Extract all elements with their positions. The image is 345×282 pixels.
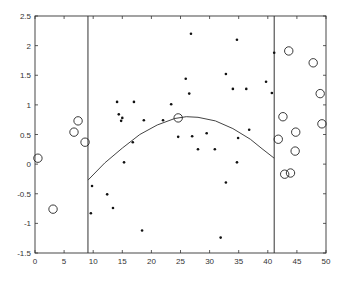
data-point-dot bbox=[141, 229, 144, 232]
data-point-circle bbox=[279, 113, 287, 121]
x-axis-ticks: 05101520253035404550 bbox=[33, 16, 331, 266]
data-point-circle bbox=[292, 128, 300, 136]
data-point-dot bbox=[121, 117, 124, 120]
y-tick-label: 2.5 bbox=[20, 12, 32, 21]
fit-curve-path bbox=[88, 117, 274, 180]
x-tick-label: 20 bbox=[147, 257, 156, 266]
data-point-dot bbox=[184, 78, 187, 81]
y-tick-label: 1.5 bbox=[20, 71, 32, 80]
data-point-dot bbox=[106, 193, 109, 196]
x-tick-label: 5 bbox=[62, 257, 67, 266]
x-tick-label: 30 bbox=[205, 257, 214, 266]
data-point-dot bbox=[188, 92, 191, 95]
data-point-circle bbox=[70, 128, 78, 136]
data-point-dot bbox=[232, 88, 235, 91]
data-point-dot bbox=[205, 132, 208, 135]
data-point-dot bbox=[225, 181, 228, 184]
x-tick-label: 40 bbox=[263, 257, 272, 266]
data-point-circle bbox=[49, 205, 57, 213]
data-point-circle bbox=[318, 120, 326, 128]
data-point-dot bbox=[245, 88, 248, 91]
y-tick-label: -1.5 bbox=[17, 249, 31, 258]
y-tick-label: -0.5 bbox=[17, 190, 31, 199]
y-tick-label: 2 bbox=[27, 42, 32, 51]
data-point-dot bbox=[273, 51, 276, 54]
data-point-dot bbox=[236, 38, 239, 41]
y-tick-label: 0 bbox=[27, 160, 32, 169]
x-tick-label: 50 bbox=[322, 257, 331, 266]
boundary-lines bbox=[88, 16, 274, 253]
data-point-dot bbox=[190, 32, 193, 35]
data-point-dot bbox=[237, 137, 240, 140]
data-point-dot bbox=[131, 141, 134, 144]
data-point-dot bbox=[197, 148, 200, 151]
inlier-points bbox=[90, 32, 276, 238]
data-point-circle bbox=[74, 117, 82, 125]
data-point-dot bbox=[133, 101, 136, 104]
data-point-circle bbox=[316, 89, 324, 97]
data-point-dot bbox=[177, 136, 180, 139]
fit-curve bbox=[88, 117, 274, 180]
data-point-circle bbox=[274, 135, 282, 143]
data-point-dot bbox=[219, 236, 222, 239]
data-point-dot bbox=[265, 80, 268, 83]
plot-frame bbox=[35, 16, 326, 253]
data-point-dot bbox=[112, 207, 115, 210]
data-point-dot bbox=[191, 135, 194, 138]
data-point-circle bbox=[286, 169, 294, 177]
y-tick-label: -1 bbox=[24, 219, 32, 228]
data-point-circle bbox=[280, 170, 288, 178]
outlier-points bbox=[34, 47, 326, 214]
data-point-dot bbox=[225, 73, 228, 76]
x-tick-label: 35 bbox=[234, 257, 243, 266]
data-point-dot bbox=[123, 161, 126, 164]
x-tick-label: 25 bbox=[176, 257, 185, 266]
data-point-dot bbox=[236, 161, 239, 164]
x-tick-label: 10 bbox=[89, 257, 98, 266]
data-point-dot bbox=[91, 185, 94, 188]
scatter-chart: 05101520253035404550 -1.5-1-0.500.511.52… bbox=[0, 0, 345, 282]
data-point-dot bbox=[120, 120, 123, 123]
data-point-circle bbox=[291, 147, 299, 155]
axes-box bbox=[35, 16, 326, 253]
data-point-dot bbox=[248, 128, 251, 131]
y-tick-label: 0.5 bbox=[20, 131, 32, 140]
data-point-dot bbox=[118, 113, 121, 116]
data-point-circle bbox=[309, 59, 317, 67]
data-point-dot bbox=[162, 119, 165, 122]
data-point-dot bbox=[170, 103, 173, 106]
y-tick-label: 1 bbox=[27, 101, 32, 110]
x-tick-label: 45 bbox=[292, 257, 301, 266]
data-point-dot bbox=[143, 119, 146, 122]
data-point-dot bbox=[90, 212, 93, 215]
data-point-dot bbox=[214, 148, 217, 151]
data-point-dot bbox=[116, 101, 119, 104]
data-point-dot bbox=[271, 92, 274, 95]
x-tick-label: 15 bbox=[118, 257, 127, 266]
x-tick-label: 0 bbox=[33, 257, 38, 266]
data-point-circle bbox=[285, 47, 293, 55]
